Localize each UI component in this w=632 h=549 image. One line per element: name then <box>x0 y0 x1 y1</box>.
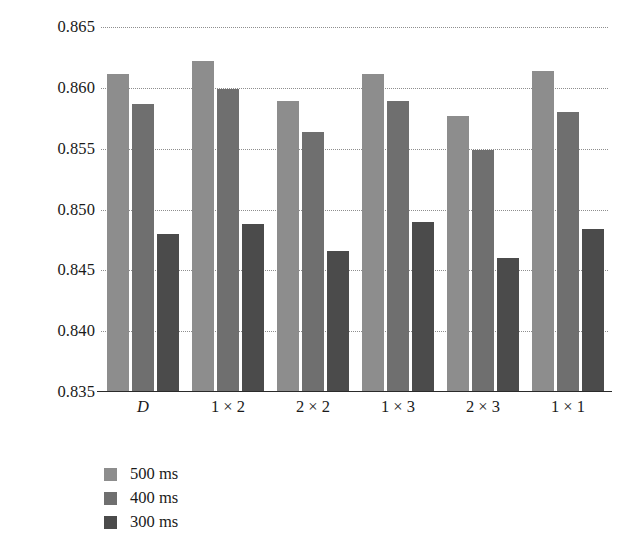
bar <box>497 258 519 392</box>
bar-group <box>362 27 434 392</box>
y-axis-tick-label: 0.835 <box>7 384 95 401</box>
bar <box>532 71 554 392</box>
bar <box>217 89 239 392</box>
legend-swatch-icon <box>104 468 117 481</box>
legend-item: 500 ms <box>104 462 178 486</box>
legend-label: 300 ms <box>130 514 178 531</box>
bar <box>107 74 129 392</box>
bar-chart: 0.8650.8600.8550.8500.8450.8400.835 D1 ×… <box>0 0 632 549</box>
y-axis-tick-label: 0.845 <box>7 262 95 279</box>
bar-group <box>192 27 264 392</box>
bar <box>472 150 494 392</box>
legend: 500 ms400 ms300 ms <box>104 462 178 534</box>
bar <box>302 132 324 392</box>
x-axis-line <box>97 391 612 392</box>
legend-label: 400 ms <box>130 490 178 507</box>
legend-label: 500 ms <box>130 466 178 483</box>
bar-group <box>277 27 349 392</box>
bar <box>132 104 154 392</box>
bar-group <box>532 27 604 392</box>
bar <box>447 116 469 392</box>
plot-area <box>101 27 608 392</box>
y-axis-tick-label: 0.860 <box>7 80 95 97</box>
bar <box>557 112 579 392</box>
bar <box>327 251 349 392</box>
legend-swatch-icon <box>104 492 117 505</box>
legend-item: 400 ms <box>104 486 178 510</box>
y-axis-tick-label: 0.865 <box>7 19 95 36</box>
bar <box>277 101 299 392</box>
bar-group <box>447 27 519 392</box>
bar <box>412 222 434 392</box>
legend-swatch-icon <box>104 516 117 529</box>
bar <box>362 74 384 392</box>
y-axis-tick-label: 0.855 <box>7 141 95 158</box>
bar <box>242 224 264 392</box>
bar-group <box>107 27 179 392</box>
y-axis-tick-label: 0.840 <box>7 323 95 340</box>
bar <box>157 234 179 392</box>
legend-item: 300 ms <box>104 510 178 534</box>
bar <box>387 101 409 392</box>
y-axis-tick-label: 0.850 <box>7 202 95 219</box>
bar <box>192 61 214 392</box>
bar <box>582 229 604 392</box>
y-axis-tick-labels: 0.8650.8600.8550.8500.8450.8400.835 <box>0 0 95 549</box>
x-axis-tick-label: 1 × 1 <box>518 399 618 416</box>
